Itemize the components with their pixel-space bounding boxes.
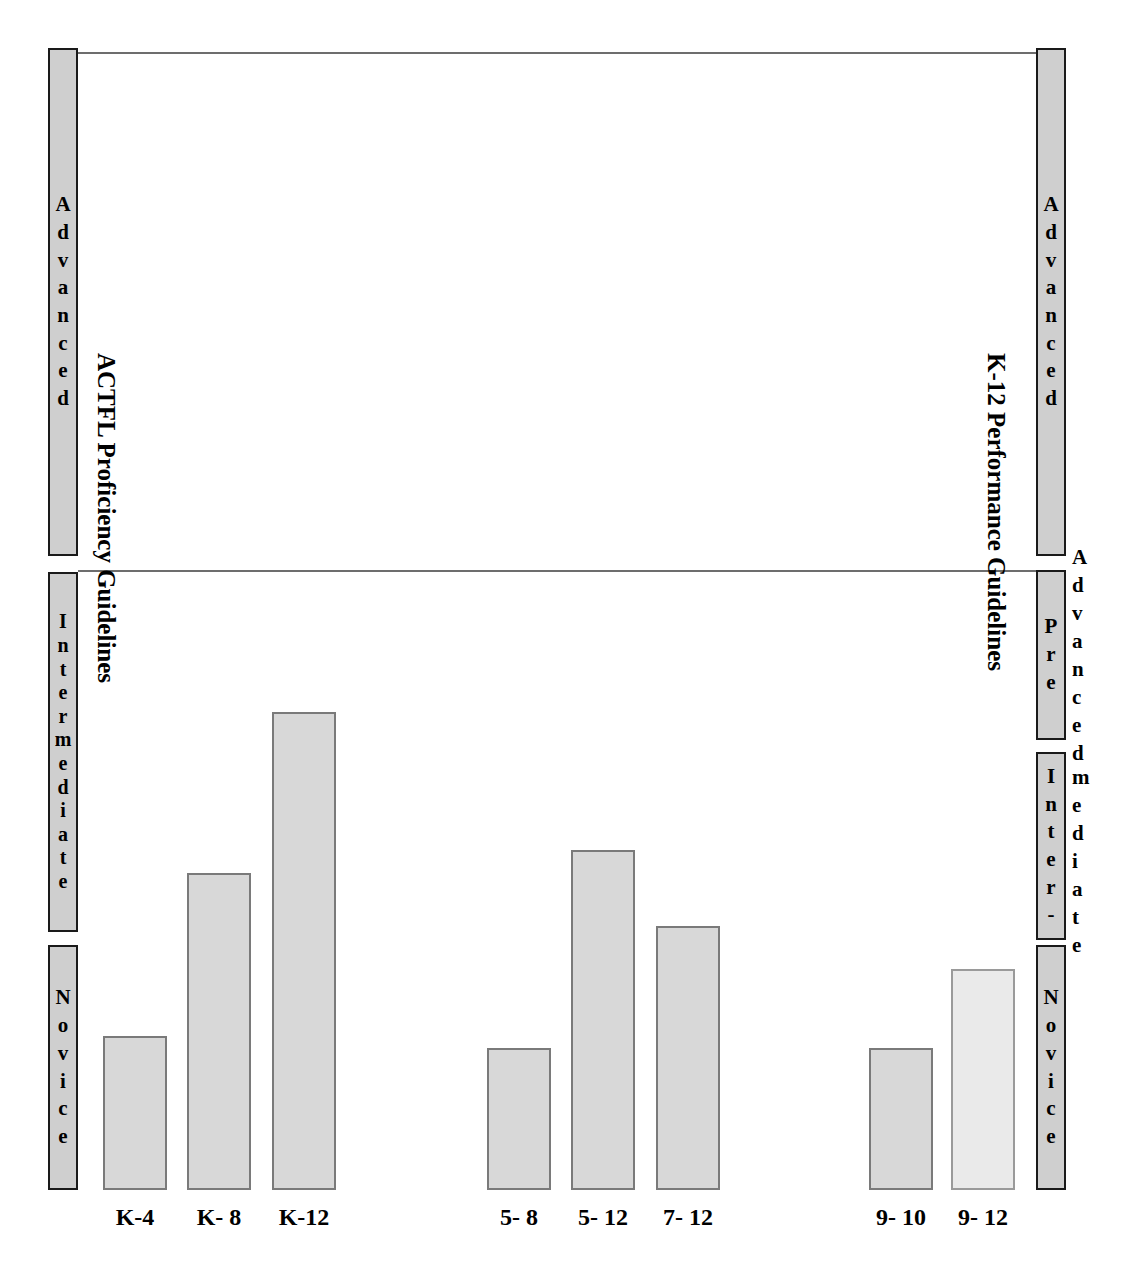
band-letter: v bbox=[1072, 600, 1083, 628]
band-letter: v bbox=[58, 247, 69, 275]
band-letter: e bbox=[1046, 1123, 1055, 1151]
band-letter: A bbox=[55, 191, 70, 219]
band-separator-line-top bbox=[78, 52, 1044, 54]
band-letter: d bbox=[57, 219, 69, 247]
band-letter: i bbox=[1048, 1068, 1054, 1096]
band-letter: t bbox=[1072, 904, 1079, 932]
band-separator-line-middle bbox=[78, 570, 1044, 572]
band-letter: n bbox=[1045, 791, 1057, 819]
bar-5-12 bbox=[571, 850, 635, 1190]
bar-k-12 bbox=[272, 712, 336, 1190]
band-letter: m bbox=[55, 728, 72, 752]
band-letter: e bbox=[1072, 792, 1081, 820]
band-letter: i bbox=[60, 1068, 66, 1096]
band-letter: c bbox=[1046, 1095, 1055, 1123]
band-letter: a bbox=[1072, 876, 1083, 904]
bar-k-8 bbox=[187, 873, 251, 1190]
band-letter: A bbox=[1043, 191, 1058, 219]
band-letter: d bbox=[57, 776, 68, 800]
band-letter: a bbox=[58, 823, 68, 847]
right-axis-title: K-12 Performance Guidelines bbox=[982, 353, 1010, 671]
xtick-label-k-4: K-4 bbox=[95, 1204, 175, 1231]
band-letter: e bbox=[1046, 357, 1055, 385]
band-letter: n bbox=[57, 302, 69, 330]
band-letter: r bbox=[59, 705, 68, 729]
right-axis-band-pre-advanced: P r e bbox=[1036, 570, 1066, 740]
band-letter: e bbox=[1072, 712, 1081, 740]
band-letter: c bbox=[58, 330, 67, 358]
bar-7-12 bbox=[656, 926, 720, 1190]
right-axis-label-mediate-outside: m e d i a t e bbox=[1072, 772, 1090, 952]
xtick-label-9-10: 9- 10 bbox=[859, 1204, 943, 1231]
xtick-label-7-12: 7- 12 bbox=[646, 1204, 730, 1231]
band-letter: r bbox=[1046, 641, 1055, 669]
left-axis-title: ACTFL Proficiency Guidelines bbox=[92, 353, 120, 683]
band-letter: N bbox=[1043, 984, 1058, 1012]
band-letter: a bbox=[1046, 274, 1057, 302]
right-axis-band-intermediate: I n t e r - bbox=[1036, 752, 1066, 940]
band-letter: c bbox=[58, 1095, 67, 1123]
band-letter: d bbox=[1045, 219, 1057, 247]
band-letter: e bbox=[58, 1123, 67, 1151]
left-axis-band-intermediate: I n t e r m e d i a t e bbox=[48, 572, 78, 932]
band-letter: n bbox=[1072, 656, 1084, 684]
band-letter: o bbox=[1046, 1012, 1057, 1040]
band-letter: d bbox=[1072, 820, 1084, 848]
band-letter: a bbox=[58, 274, 69, 302]
band-letter: t bbox=[60, 846, 67, 870]
chart-canvas: A d v a n c e d I n t e r m e d i a t e … bbox=[0, 0, 1135, 1274]
band-letter: A bbox=[1072, 544, 1087, 572]
xtick-label-5-8: 5- 8 bbox=[479, 1204, 559, 1231]
band-letter: I bbox=[59, 610, 67, 634]
xtick-label-9-12: 9- 12 bbox=[941, 1204, 1025, 1231]
xtick-label-5-12: 5- 12 bbox=[561, 1204, 645, 1231]
band-letter: e bbox=[1046, 669, 1055, 697]
left-axis-band-novice: N o v i c e bbox=[48, 945, 78, 1190]
right-axis-label-advanced-outside: A d v a n c e d bbox=[1072, 556, 1087, 756]
band-letter: e bbox=[58, 357, 67, 385]
band-letter: d bbox=[57, 385, 69, 413]
band-letter: a bbox=[1072, 628, 1083, 656]
band-letter: d bbox=[1072, 572, 1084, 600]
left-axis-band-advanced: A d v a n c e d bbox=[48, 48, 78, 556]
band-letter: r bbox=[1046, 874, 1055, 902]
band-letter: i bbox=[60, 799, 66, 823]
bar-9-10 bbox=[869, 1048, 933, 1190]
band-letter: v bbox=[1046, 247, 1057, 275]
band-letter: o bbox=[58, 1012, 69, 1040]
band-letter: - bbox=[1048, 901, 1055, 929]
band-letter: m bbox=[1072, 764, 1090, 792]
band-letter: e bbox=[59, 681, 68, 705]
band-letter: I bbox=[1047, 763, 1055, 791]
band-letter: t bbox=[60, 658, 67, 682]
band-letter: e bbox=[1046, 846, 1055, 874]
band-letter: i bbox=[1072, 848, 1078, 876]
band-letter: c bbox=[1072, 684, 1081, 712]
band-letter: v bbox=[58, 1040, 69, 1068]
band-letter: n bbox=[1045, 302, 1057, 330]
band-letter: n bbox=[57, 634, 68, 658]
xtick-label-k-12: K-12 bbox=[262, 1204, 346, 1231]
bar-9-12 bbox=[951, 969, 1015, 1190]
bar-5-8 bbox=[487, 1048, 551, 1190]
bar-k-4 bbox=[103, 1036, 167, 1190]
right-axis-band-advanced: A d v a n c e d bbox=[1036, 48, 1066, 556]
band-letter: e bbox=[59, 870, 68, 894]
band-letter: v bbox=[1046, 1040, 1057, 1068]
band-letter: e bbox=[59, 752, 68, 776]
band-letter: N bbox=[55, 984, 70, 1012]
band-letter: e bbox=[1072, 932, 1081, 960]
band-letter: d bbox=[1045, 385, 1057, 413]
xtick-label-k-8: K- 8 bbox=[179, 1204, 259, 1231]
band-letter: t bbox=[1048, 818, 1055, 846]
band-letter: P bbox=[1045, 613, 1058, 641]
band-letter: c bbox=[1046, 330, 1055, 358]
right-axis-band-novice: N o v i c e bbox=[1036, 945, 1066, 1190]
